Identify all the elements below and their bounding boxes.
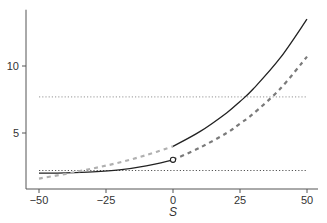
x-tick-label: −50 xyxy=(30,194,49,206)
series-layer xyxy=(39,19,307,178)
y-tick-label: 10 xyxy=(7,60,19,72)
annotation-layer xyxy=(170,157,175,162)
dark-dashed-right-line xyxy=(173,57,307,160)
x-tick-label: −25 xyxy=(97,194,116,206)
axes: −50−2502550 510 S xyxy=(7,10,318,219)
y-ticks: 510 xyxy=(7,60,26,139)
solid-left-branch-line xyxy=(39,160,173,173)
y-tick-label: 5 xyxy=(13,127,19,139)
light-dashed-left-line xyxy=(39,146,173,178)
line-chart: −50−2502550 510 S xyxy=(0,0,327,223)
x-ticks: −50−2502550 xyxy=(30,189,313,206)
x-tick-label: 50 xyxy=(301,194,313,206)
x-axis-title: S xyxy=(169,205,177,219)
x-tick-label: 25 xyxy=(234,194,246,206)
open-circle-marker xyxy=(170,157,175,162)
